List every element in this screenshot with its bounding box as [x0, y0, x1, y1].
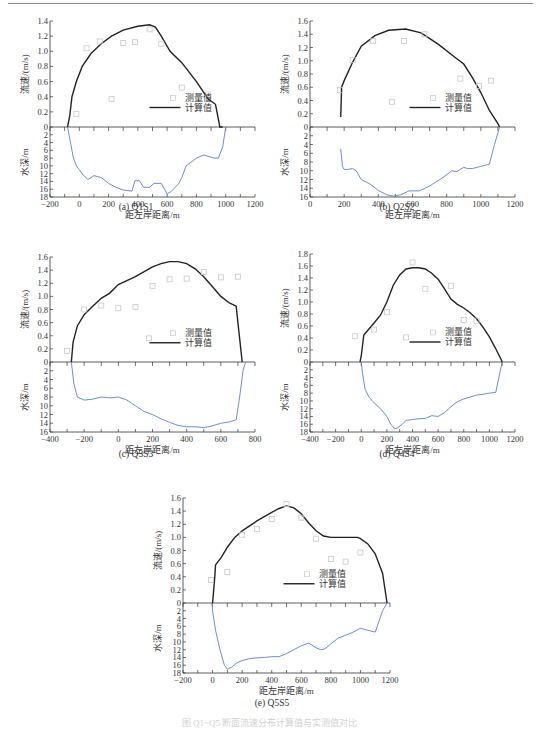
- velocity-tick-label: 0.8: [37, 305, 48, 315]
- measured-marker: [99, 303, 104, 308]
- legend-measured-label: 测量值: [445, 326, 472, 337]
- velocity-tick-label: 1.6: [297, 16, 308, 26]
- measured-marker: [133, 304, 138, 309]
- legend-measured-label: 测量值: [445, 92, 472, 103]
- chart-panel-e: 00.20.40.60.81.01.21.41.624681012141618−…: [152, 493, 399, 696]
- velocity-tick-label: 0.2: [37, 107, 48, 117]
- x-tick-label: 800: [190, 199, 203, 209]
- measured-marker: [65, 348, 70, 353]
- x-tick-label: 0: [210, 675, 214, 685]
- x-tick-label: 0: [308, 199, 312, 209]
- measured-marker: [147, 336, 152, 341]
- measured-marker: [404, 335, 409, 340]
- chart-panel-a: 00.20.40.60.81.01.21.424681012141618−200…: [19, 16, 264, 220]
- measured-marker: [423, 286, 428, 291]
- measured-marker: [372, 327, 377, 332]
- measured-marker: [461, 318, 466, 323]
- velocity-tick-label: 0.4: [297, 333, 308, 343]
- caption-c: (c) Q3S3: [106, 449, 166, 459]
- measured-marker: [167, 277, 172, 282]
- x-tick-label: 200: [338, 199, 351, 209]
- measured-marker: [184, 276, 189, 281]
- measured-marker: [74, 112, 79, 117]
- velocity-tick-label: 0.8: [297, 69, 308, 79]
- x-tick-label: −200: [41, 199, 59, 209]
- measured-marker: [343, 559, 348, 564]
- x-tick-label: 200: [381, 434, 394, 444]
- measured-marker: [314, 536, 319, 541]
- velocity-tick-label: 0.2: [297, 109, 308, 119]
- legend-measured-label: 测量值: [185, 327, 212, 338]
- measured-marker: [225, 570, 230, 575]
- velocity-tick-label: 1.6: [297, 261, 308, 271]
- depth-axis-label: 水深/m: [152, 624, 163, 652]
- x-tick-label: −200: [327, 434, 345, 444]
- velocity-tick-label: 0.6: [37, 318, 48, 328]
- velocity-tick-label: 0.2: [170, 585, 181, 595]
- measured-marker: [121, 40, 126, 45]
- legend-measured-label: 测量值: [319, 568, 346, 579]
- x-tick-label: −200: [174, 675, 192, 685]
- velocity-tick-label: 1.4: [37, 16, 48, 26]
- measured-marker: [132, 40, 137, 45]
- velocity-tick-label: 1.0: [170, 532, 181, 542]
- velocity-tick-label: 0.2: [37, 344, 48, 354]
- velocity-tick-label: 1.0: [37, 46, 48, 56]
- caption-b: (b) Q2S2: [367, 202, 427, 212]
- x-tick-label: 1200: [507, 434, 524, 444]
- x-tick-label: 400: [406, 434, 419, 444]
- legend-measured-marker: [171, 96, 176, 101]
- measured-marker: [147, 27, 152, 32]
- figure-caption: 图 Q1~Q5 断面流速分布计算值与实测值对比: [0, 716, 539, 729]
- depth-axis-label: 水深/m: [19, 148, 30, 176]
- velocity-tick-label: 0.6: [297, 82, 308, 92]
- measured-marker: [254, 526, 259, 531]
- measured-marker: [410, 260, 415, 265]
- measured-marker: [352, 334, 357, 339]
- velocity-tick-label: 0.6: [37, 77, 48, 87]
- velocity-tick-label: 1.2: [297, 43, 308, 53]
- x-tick-label: 1200: [247, 199, 264, 209]
- measured-marker: [269, 517, 274, 522]
- measured-marker: [390, 99, 395, 104]
- depth-axis-label: 水深/m: [279, 148, 290, 176]
- velocity-tick-label: 0.8: [37, 61, 48, 71]
- measured-marker: [109, 96, 114, 101]
- velocity-axis-label: 流速/(m/s): [19, 54, 30, 94]
- velocity-tick-label: 1.6: [170, 493, 181, 503]
- legend-measured-marker: [171, 331, 176, 336]
- chart-panel-d: 00.20.40.60.81.01.21.41.61.8246810121416…: [279, 249, 524, 455]
- chart-panel-b: 00.20.40.60.81.01.21.41.6246810121416020…: [279, 16, 524, 220]
- measured-marker: [489, 78, 494, 83]
- depth-profile-line: [68, 127, 226, 194]
- x-tick-label: 600: [295, 675, 308, 685]
- velocity-tick-label: 1.2: [37, 31, 48, 41]
- x-tick-label: 400: [265, 675, 278, 685]
- measured-marker: [209, 578, 214, 583]
- x-tick-label: 400: [180, 434, 193, 444]
- caption-d: (d) Q4S4: [367, 449, 427, 459]
- legend-measured-marker: [305, 572, 310, 577]
- legend-computed-label: 计算值: [185, 337, 212, 348]
- x-tick-label: 600: [432, 434, 445, 444]
- x-tick-label: 800: [440, 199, 453, 209]
- computed-velocity-line: [71, 262, 242, 362]
- velocity-tick-label: 0.4: [170, 572, 181, 582]
- caption-e: (e) Q5S5: [242, 698, 302, 708]
- velocity-axis-label: 流速/(m/s): [279, 54, 290, 94]
- velocity-tick-label: 1.2: [170, 519, 181, 529]
- depth-profile-line: [212, 603, 387, 669]
- measured-marker: [179, 85, 184, 90]
- charts-canvas: 00.20.40.60.81.01.21.424681012141618−200…: [0, 0, 539, 729]
- velocity-tick-label: 1.4: [297, 29, 308, 39]
- x-tick-label: 1000: [481, 434, 498, 444]
- x-tick-label: 200: [146, 434, 159, 444]
- velocity-tick-label: 1.6: [37, 252, 48, 262]
- velocity-tick-label: 1.4: [297, 273, 308, 283]
- x-tick-label: −200: [75, 434, 93, 444]
- x-tick-label: 0: [116, 434, 120, 444]
- distance-axis-label: 距左岸距离/m: [259, 685, 314, 696]
- caption-a: (a) Q1S1: [106, 202, 166, 212]
- measured-marker: [358, 550, 363, 555]
- x-tick-label: 1000: [472, 199, 489, 209]
